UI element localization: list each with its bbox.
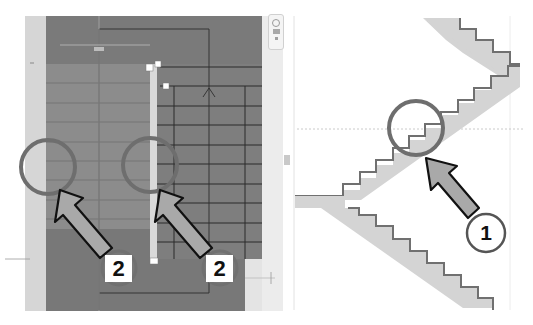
callout-label: 1 [480,221,492,245]
section-drawing [293,0,533,325]
callout-badge-right: 2 [206,255,233,282]
stair-plan-view[interactable]: 2 2 [0,0,295,325]
callout-badge-section: 1 [476,221,496,245]
callout-label: 2 [112,256,124,282]
stair-section-view[interactable]: 1 [293,0,533,325]
callout-badge-left: 2 [105,255,132,282]
callout-overlay-left [0,0,295,325]
callout-label: 2 [213,256,225,282]
